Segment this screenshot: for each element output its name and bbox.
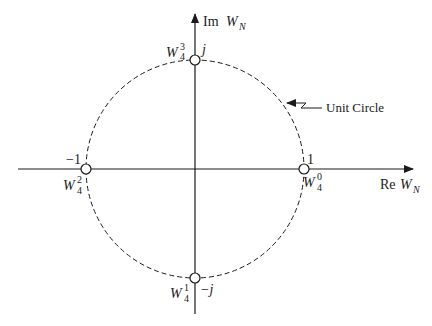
svg-text:W: W <box>166 45 179 60</box>
point-w4-1 <box>190 273 200 283</box>
svg-text:1: 1 <box>307 152 314 167</box>
svg-text:Re: Re <box>380 177 396 192</box>
label-w4-1: W 1 4 −j <box>170 282 213 304</box>
unit-circle-label: Unit Circle <box>326 100 384 115</box>
svg-text:N: N <box>412 184 421 195</box>
unit-circle-callout: Unit Circle <box>287 100 384 115</box>
svg-text:N: N <box>238 21 247 32</box>
svg-text:W: W <box>303 175 316 190</box>
svg-text:0: 0 <box>317 171 322 182</box>
svg-text:−1: −1 <box>66 152 81 167</box>
imag-axis-label: Im W N <box>203 14 247 32</box>
unit-circle-diagram: Im W N Re W N W 3 4 j 1 W 0 4 −1 W 2 4 W… <box>0 0 432 326</box>
svg-text:j: j <box>200 42 206 57</box>
real-axis-label: Re W N <box>380 177 421 195</box>
svg-text:2: 2 <box>77 174 82 185</box>
svg-text:4: 4 <box>77 185 82 196</box>
svg-text:W: W <box>400 177 413 192</box>
point-w4-3 <box>190 55 200 65</box>
svg-text:4: 4 <box>317 182 322 193</box>
svg-text:Im: Im <box>203 14 219 29</box>
svg-text:4: 4 <box>184 293 189 304</box>
svg-text:4: 4 <box>180 51 185 62</box>
svg-text:W: W <box>170 286 183 301</box>
svg-text:1: 1 <box>184 282 189 293</box>
point-w4-2 <box>81 164 91 174</box>
label-w4-2: −1 W 2 4 <box>63 152 82 196</box>
svg-text:−j: −j <box>200 282 213 297</box>
svg-text:W: W <box>226 14 239 29</box>
svg-text:W: W <box>63 178 76 193</box>
